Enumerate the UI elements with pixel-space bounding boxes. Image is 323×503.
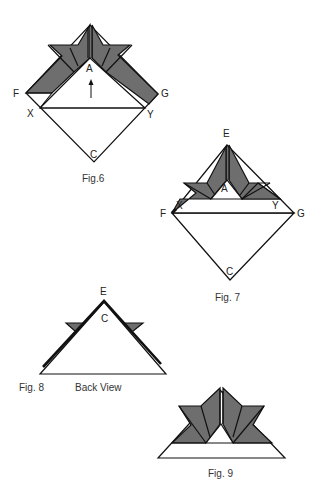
- fig6-label-x: X: [27, 108, 34, 119]
- fig8-label-c: C: [101, 313, 108, 324]
- fig7-label-a: A: [221, 183, 228, 194]
- origami-instructions-diagram: A F G X Y C Fig.6 E A F G X Y C Fig. 7: [0, 0, 323, 503]
- fig8-caption: Fig. 8: [19, 382, 44, 393]
- fig9-caption: Fig. 9: [208, 468, 233, 479]
- figure-9: [158, 388, 285, 458]
- fig6-label-g: G: [161, 88, 169, 99]
- fig6-label-f: F: [13, 88, 19, 99]
- figure-8: [40, 301, 166, 374]
- fig8-label-e: E: [100, 286, 107, 297]
- fig7-label-y: Y: [272, 200, 279, 211]
- fig7-label-x: X: [176, 200, 183, 211]
- fig6-label-y: Y: [147, 109, 154, 120]
- fig9-right-flap: [223, 388, 272, 443]
- fig7-label-e: E: [223, 128, 230, 139]
- fig6-caption: Fig.6: [82, 173, 105, 184]
- fig7-label-c: C: [226, 266, 233, 277]
- fig7-caption: Fig. 7: [215, 292, 240, 303]
- fig8-subcaption: Back View: [75, 382, 122, 393]
- figure-7: [172, 145, 294, 280]
- fig7-label-f: F: [160, 208, 166, 219]
- fig7-label-g: G: [297, 208, 305, 219]
- fig6-label-c: C: [90, 149, 97, 160]
- figure-6: [26, 25, 158, 162]
- fig6-label-a: A: [86, 63, 93, 74]
